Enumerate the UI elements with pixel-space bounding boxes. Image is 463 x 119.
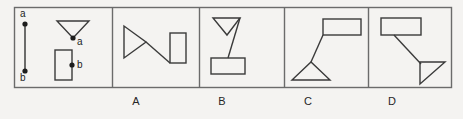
prompt-triangle-vertex-a-dot [70,35,75,40]
prompt-panel [22,21,89,80]
prompt-point-a-dot [22,21,27,26]
option-b-connector [228,18,240,58]
option-a-connector [146,42,170,63]
option-d-triangle [420,62,445,84]
option-d-shapes[interactable] [381,18,445,84]
option-c-shapes[interactable] [292,19,361,80]
option-a-shapes[interactable] [124,26,186,63]
option-d-connector [394,35,421,64]
figure-frame [15,8,452,88]
prompt-rectangle-vertex-b-dot [69,62,74,67]
option-a-triangle [124,26,146,58]
option-label-c[interactable]: C [288,95,328,107]
option-b-rectangle [211,58,245,74]
option-label-b[interactable]: B [202,95,242,107]
option-b-shapes[interactable] [211,18,245,74]
prompt-label-a-top: a [20,8,26,19]
prompt-label-b-bottom: b [20,72,26,83]
option-label-d[interactable]: D [372,95,412,107]
option-d-rectangle [381,18,421,35]
option-a-rectangle [170,33,186,63]
option-c-triangle [292,62,330,80]
option-c-rectangle [323,19,361,35]
prompt-label-a-triangle: a [77,36,83,47]
option-c-connector [311,35,323,62]
option-label-a[interactable]: A [116,95,156,107]
prompt-label-b-rectangle: b [77,59,83,70]
